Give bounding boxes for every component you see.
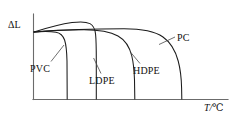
curve-label-pvc: PVC bbox=[30, 64, 50, 74]
x-axis-label-unit: ℃ bbox=[212, 102, 223, 113]
leader-line-pc bbox=[159, 37, 175, 45]
curve-label-hdpe: HDPE bbox=[133, 66, 160, 76]
curve-ldpe bbox=[34, 22, 96, 99]
y-axis-label: ΔL bbox=[8, 20, 21, 30]
curve-pc bbox=[34, 29, 182, 99]
curve-label-pc: PC bbox=[177, 33, 190, 43]
y-axis-label-text: ΔL bbox=[8, 19, 21, 30]
leader-line-pvc bbox=[51, 45, 64, 62]
leader-line-ldpe bbox=[94, 58, 101, 74]
x-axis-label: T/℃ bbox=[204, 103, 224, 113]
curve-label-ldpe: LDPE bbox=[89, 76, 115, 86]
tma-chart-figure: ΔL T/℃ PVC LDPE HDPE PC bbox=[0, 0, 243, 121]
